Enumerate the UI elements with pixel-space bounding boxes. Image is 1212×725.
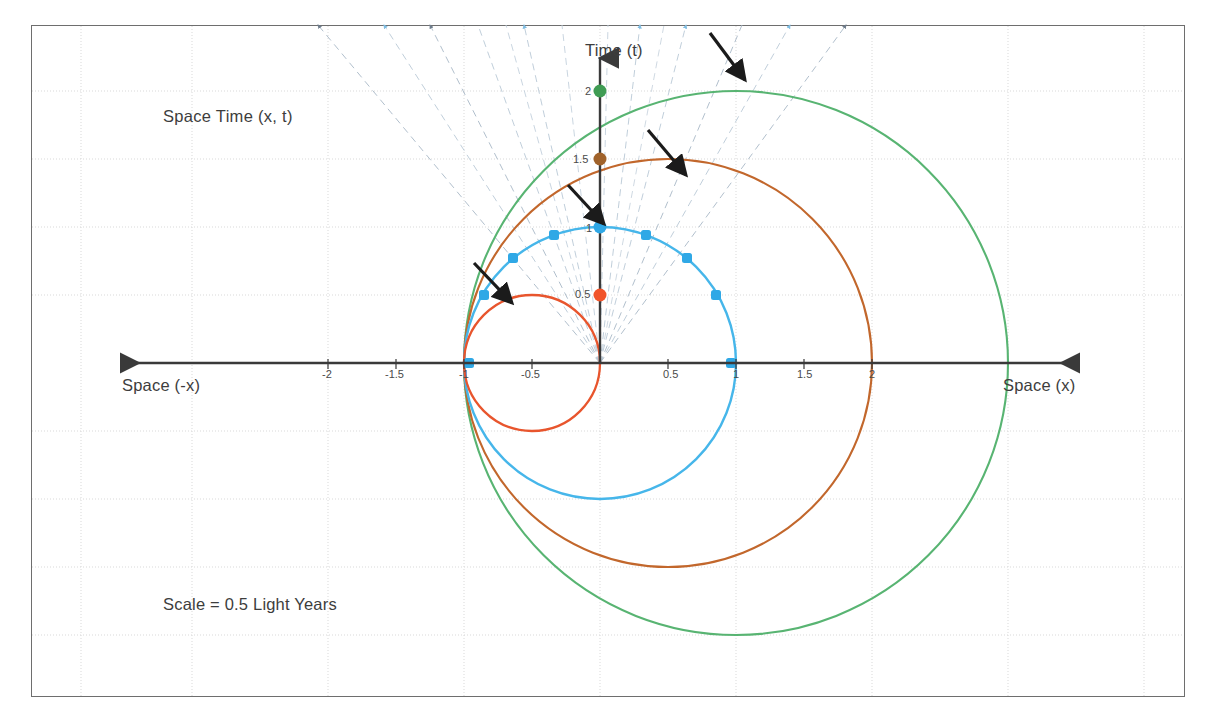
xtick-label: -1 (459, 368, 469, 380)
xtick-label: 2 (869, 368, 875, 380)
ytick-label: 2 (585, 85, 591, 97)
radial-ray-group (318, 25, 846, 363)
axis-marker-green (594, 85, 607, 98)
ytick-label: 1 (586, 222, 592, 234)
x-axis-positive-label: Space (x) (1003, 376, 1075, 395)
data-marker (711, 290, 721, 300)
arrow-to-blue-circle (568, 185, 604, 224)
xtick-label: 0.5 (663, 368, 678, 380)
radial-ray (600, 25, 640, 363)
axis-marker-brown (594, 153, 607, 166)
data-marker (549, 230, 559, 240)
axis-marker-red (594, 289, 607, 302)
data-marker (682, 253, 692, 263)
radial-ray (318, 25, 600, 363)
spacetime-figure: Space Time (x, t) Time (t) Space (-x) Sp… (0, 0, 1212, 725)
xtick-label: -0.5 (521, 368, 540, 380)
x-axis-negative-label: Space (-x) (122, 376, 200, 395)
data-marker (641, 230, 651, 240)
radial-ray (600, 25, 846, 363)
radial-ray (600, 25, 686, 363)
ytick-label: 0.5 (575, 288, 590, 300)
radial-ray (524, 25, 600, 363)
radial-ray (600, 25, 790, 363)
radial-ray (478, 25, 600, 363)
data-marker (508, 253, 518, 263)
xtick-label: -1.5 (385, 368, 404, 380)
y-axis-label: Time (t) (585, 41, 643, 60)
scale-note: Scale = 0.5 Light Years (163, 595, 337, 614)
xtick-label: -2 (322, 368, 332, 380)
xtick-label: 1 (733, 368, 739, 380)
radial-ray (600, 25, 742, 363)
chart-title: Space Time (x, t) (163, 107, 293, 126)
radial-ray (600, 25, 664, 363)
data-marker (479, 290, 489, 300)
xtick-label: 1.5 (797, 368, 812, 380)
ytick-label: 1.5 (573, 153, 588, 165)
arrow-to-green-circle (710, 33, 745, 80)
